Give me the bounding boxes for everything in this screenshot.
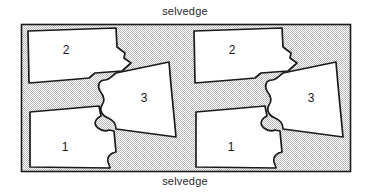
piece-label-1-left: 1 <box>62 140 69 154</box>
selvedge-label-bottom: selvedge <box>0 175 370 188</box>
piece-label-2-left: 2 <box>63 43 70 57</box>
selvedge-label-top: selvedge <box>0 5 370 18</box>
piece-label-3-right: 3 <box>308 91 315 105</box>
fabric-layout-svg: 2 3 1 2 3 1 <box>0 0 370 193</box>
piece-label-3-left: 3 <box>141 91 148 105</box>
piece-label-1-right: 1 <box>228 140 235 154</box>
cutting-layout-diagram: selvedge 2 3 1 2 3 1 <box>0 0 370 193</box>
piece-label-2-right: 2 <box>229 43 236 57</box>
